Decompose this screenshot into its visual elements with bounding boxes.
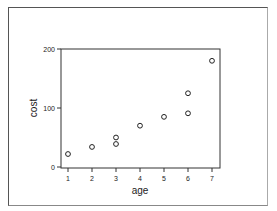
plot-area xyxy=(61,49,220,168)
y-tick-label: 100 xyxy=(43,105,55,112)
data-point xyxy=(90,145,95,150)
data-points xyxy=(66,58,215,156)
x-tick-label: 5 xyxy=(162,175,166,182)
scatter-plot: 0100200 1234567 age cost xyxy=(0,0,277,211)
data-point xyxy=(114,135,119,140)
x-tick-label: 1 xyxy=(66,175,70,182)
data-point xyxy=(186,111,191,116)
y-axis-label: cost xyxy=(28,99,39,118)
x-tick-label: 4 xyxy=(138,175,142,182)
data-point xyxy=(138,123,143,128)
y-tick-label: 200 xyxy=(43,46,55,53)
data-point xyxy=(162,114,167,119)
x-axis: 1234567 xyxy=(66,168,214,182)
x-tick-label: 6 xyxy=(186,175,190,182)
x-tick-label: 2 xyxy=(90,175,94,182)
x-tick-label: 3 xyxy=(114,175,118,182)
data-point xyxy=(210,58,215,63)
x-tick-label: 7 xyxy=(210,175,214,182)
data-point xyxy=(186,91,191,96)
x-axis-label: age xyxy=(132,185,149,196)
data-point xyxy=(114,142,119,147)
y-tick-label: 0 xyxy=(51,164,55,171)
y-axis: 0100200 xyxy=(43,46,61,171)
data-point xyxy=(66,152,71,157)
